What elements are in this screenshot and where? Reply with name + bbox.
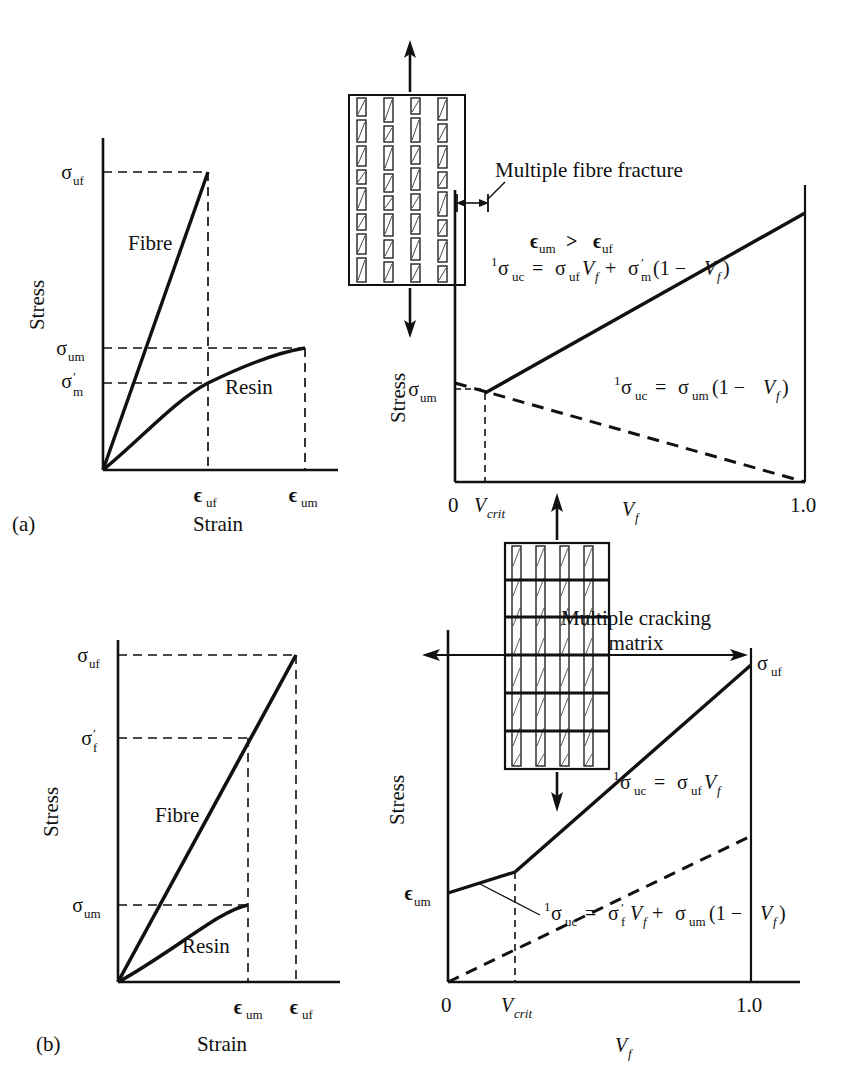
a-right-y-axis-label: Stress [386, 373, 410, 423]
svg-text:σ: σ [608, 902, 619, 924]
svg-text:uf: uf [206, 495, 218, 510]
svg-text:=: = [585, 902, 596, 924]
svg-text:+: + [605, 257, 616, 279]
svg-text:ϵ: ϵ [194, 484, 203, 506]
svg-text:uf: uf [771, 664, 783, 679]
svg-text:): ) [779, 902, 786, 925]
svg-text:um: um [68, 349, 85, 364]
b-right-xtick-one: 1.0 [736, 993, 762, 1017]
svg-text:crit: crit [514, 1006, 532, 1021]
svg-text:m: m [641, 269, 651, 284]
svg-text:um: um [420, 390, 437, 405]
svg-text:m: m [73, 384, 83, 399]
svg-text:=: = [655, 376, 666, 398]
svg-text:σ: σ [61, 161, 72, 183]
svg-text:′: ′ [93, 726, 96, 741]
a-right-xtick-one: 1.0 [790, 493, 816, 517]
b-left-y-axis-label: Stress [39, 787, 63, 837]
svg-text:1: 1 [614, 373, 621, 388]
svg-text:σ: σ [61, 370, 72, 392]
panel-a-tag: (a) [12, 512, 35, 536]
b-right-annotation-line1: Multiple cracking [561, 606, 711, 630]
svg-text:f: f [93, 740, 98, 755]
svg-text:σ: σ [77, 644, 88, 666]
svg-text:uf: uf [73, 173, 85, 188]
svg-text:σ: σ [551, 902, 562, 924]
svg-text:ϵ: ϵ [530, 230, 539, 252]
svg-text:1: 1 [544, 899, 551, 914]
svg-text:σ: σ [678, 376, 689, 398]
svg-text:uc: uc [565, 914, 578, 929]
svg-text:um: um [689, 914, 706, 929]
svg-text:um: um [414, 894, 431, 909]
svg-text:σ: σ [81, 727, 92, 749]
svg-text:um: um [246, 1007, 263, 1022]
svg-text:>: > [566, 230, 577, 252]
svg-text:+: + [652, 902, 663, 924]
svg-text:ϵ: ϵ [290, 996, 299, 1018]
svg-text:uf: uf [302, 1007, 314, 1022]
svg-text:uf: uf [569, 269, 581, 284]
a-left-resin-label: Resin [225, 375, 273, 399]
svg-text:σ: σ [675, 902, 686, 924]
svg-text:um: um [539, 241, 556, 256]
svg-text:1: 1 [613, 768, 620, 783]
svg-text:ϵ: ϵ [289, 484, 298, 506]
svg-text:σ: σ [621, 376, 632, 398]
b-left-x-axis-label: Strain [197, 1032, 248, 1056]
svg-text:σ: σ [56, 337, 67, 359]
svg-text:σ: σ [677, 771, 688, 793]
svg-text:(1 −: (1 − [712, 376, 745, 399]
svg-text:crit: crit [487, 506, 505, 521]
svg-text:′: ′ [641, 255, 644, 270]
svg-text:ϵ: ϵ [405, 882, 414, 904]
svg-text:(1 −: (1 − [653, 257, 686, 280]
svg-text:′: ′ [621, 900, 624, 915]
svg-text:um: um [301, 495, 318, 510]
a-right-annotation-label: Multiple fibre fracture [495, 158, 683, 182]
svg-text:ϵ: ϵ [234, 996, 243, 1018]
figure-canvas: σ uf σ um σ m ′ ϵ uf ϵ um Fibre Resin St… [0, 0, 858, 1081]
svg-text:uc: uc [512, 269, 525, 284]
svg-text:1: 1 [491, 254, 498, 269]
svg-text:′: ′ [73, 369, 76, 384]
b-right-xtick-zero: 0 [441, 993, 452, 1017]
svg-text:uf: uf [691, 783, 703, 798]
svg-text:um: um [84, 906, 101, 921]
svg-text:σ: σ [757, 652, 768, 674]
b-right-y-axis-label: Stress [385, 775, 409, 825]
b-left-resin-label: Resin [182, 934, 230, 958]
svg-text:σ: σ [72, 894, 83, 916]
a-left-x-axis-label: Strain [193, 512, 244, 536]
svg-text:ϵ: ϵ [593, 230, 602, 252]
svg-text:=: = [532, 257, 543, 279]
svg-text:f: f [621, 914, 626, 929]
svg-text:σ: σ [620, 771, 631, 793]
svg-text:uf: uf [602, 241, 614, 256]
panel-b-tag: (b) [36, 1032, 61, 1056]
svg-text:uc: uc [635, 388, 648, 403]
svg-text:uf: uf [89, 656, 101, 671]
svg-text:=: = [654, 771, 665, 793]
b-left-fibre-label: Fibre [155, 803, 199, 827]
a-right-xtick-zero: 0 [448, 493, 459, 517]
svg-text:): ) [782, 376, 789, 399]
svg-text:(1 −: (1 − [709, 902, 742, 925]
composite-strength-figure: σ uf σ um σ m ′ ϵ uf ϵ um Fibre Resin St… [0, 0, 858, 1081]
svg-text:uc: uc [634, 783, 647, 798]
svg-text:σ: σ [498, 257, 509, 279]
a-left-fibre-label: Fibre [128, 231, 172, 255]
b-right-annotation-line2: matrix [609, 631, 664, 655]
svg-text:σ: σ [555, 257, 566, 279]
svg-text:um: um [692, 388, 709, 403]
a-left-y-axis-label: Stress [25, 280, 49, 330]
svg-text:σ: σ [628, 257, 639, 279]
